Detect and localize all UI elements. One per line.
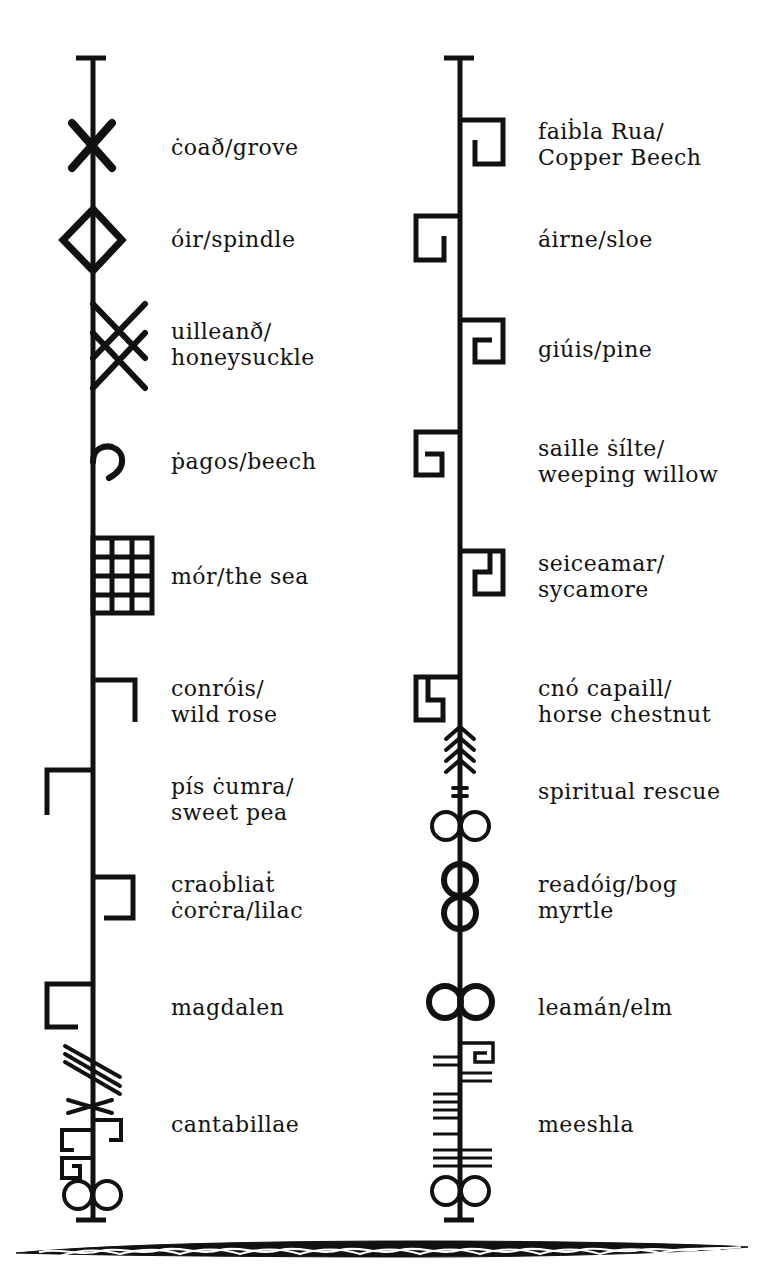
- right-hook-down-icon: [93, 680, 135, 722]
- label-lilac: craoḃliaṫ ċorċra/lilac: [171, 872, 303, 924]
- spiral-left-tight-icon: [416, 432, 460, 475]
- label-grove: ċoað/grove: [171, 135, 299, 161]
- label-magdalen: magdalen: [171, 995, 284, 1021]
- step-left-icon: [416, 677, 460, 720]
- label-sycamore: seiceamar/ sycamore: [538, 551, 665, 603]
- celtic-knot-border-icon: [16, 1241, 748, 1257]
- label-meeshla: meeshla: [538, 1112, 634, 1138]
- label-spindle: óir/spindle: [171, 227, 295, 253]
- label-pine: giúis/pine: [538, 337, 652, 363]
- symbol-glyphs: [0, 0, 773, 1286]
- left-hook-down-icon: [47, 770, 93, 815]
- spiral-left-icon: [416, 216, 460, 260]
- label-weeping-willow: saille ṡílte/ weeping willow: [538, 436, 718, 488]
- label-sweet-pea: pís ċumra/ sweet pea: [171, 774, 294, 826]
- label-honeysuckle: uilleanð/ honeysuckle: [171, 319, 315, 371]
- label-copper-beech: faiḃla Rua/ Copper Beech: [538, 119, 701, 171]
- right-bracket-icon: [93, 877, 133, 918]
- label-elm: leamán/elm: [538, 995, 673, 1021]
- label-sloe: áirne/sloe: [538, 227, 653, 253]
- label-cantabillae: cantabillae: [171, 1112, 299, 1138]
- double-cross-icon: [93, 304, 145, 388]
- right-stem: [444, 58, 474, 1222]
- ogham-symbol-chart: ċoað/grove óir/spindle uilleanð/ honeysu…: [0, 0, 773, 1286]
- hook-icon: [93, 446, 122, 478]
- label-spiritual-rescue: spiritual rescue: [538, 779, 720, 805]
- label-beech: ṗagos/beech: [171, 449, 316, 475]
- label-the-sea: mór/the sea: [171, 564, 309, 590]
- label-horse-chestnut: cnó capaill/ horse chestnut: [538, 676, 711, 728]
- label-bog-myrtle: readóig/bog myrtle: [538, 872, 677, 924]
- grid-icon: [93, 538, 152, 613]
- step-right-icon: [460, 551, 503, 594]
- left-stem: [76, 58, 106, 1222]
- label-wild-rose: conróis/ wild rose: [171, 676, 278, 728]
- left-bracket-icon: [47, 984, 93, 1027]
- spiral-right-icon: [460, 120, 503, 164]
- spiral-right-tight-icon: [460, 320, 503, 362]
